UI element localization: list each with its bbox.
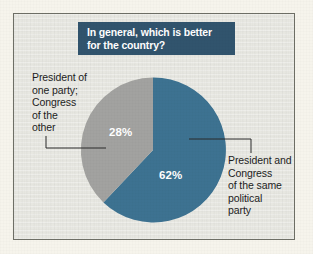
- chart-title-line-2: for the country?: [87, 39, 235, 52]
- pie-texture: [80, 77, 226, 223]
- callout-label-same-party: President and Congress of the same polit…: [228, 154, 292, 217]
- callout-left-line-1: President of: [32, 71, 87, 84]
- chart-panel: 28% 62% In general, which is better for …: [13, 13, 295, 240]
- callout-right-line-2: Congress: [228, 167, 292, 180]
- chart-title-banner: In general, which is better for the coun…: [78, 22, 235, 55]
- callout-right-line-1: President and: [228, 154, 292, 167]
- callout-left-line-4: of the: [32, 109, 87, 122]
- callout-left-line-5: other: [32, 121, 87, 134]
- chart-figure: 28% 62% In general, which is better for …: [0, 0, 313, 254]
- callout-right-line-3: of the same: [228, 179, 292, 192]
- pie-value-same-party: 62%: [159, 169, 182, 181]
- callout-right-line-4: political: [228, 192, 292, 205]
- chart-title-line-1: In general, which is better: [87, 26, 235, 39]
- pie-value-different-party: 28%: [109, 126, 132, 138]
- callout-label-different-party: President of one party; Congress of the …: [32, 71, 87, 134]
- callout-left-line-2: one party;: [32, 84, 87, 97]
- callout-left-line-3: Congress: [32, 96, 87, 109]
- callout-right-line-5: party: [228, 204, 292, 217]
